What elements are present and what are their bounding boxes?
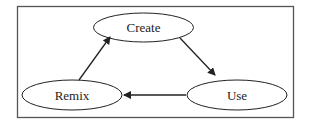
- node-use: Use: [187, 80, 287, 110]
- node-create: Create: [94, 13, 194, 42]
- node-use-label: Use: [227, 88, 247, 103]
- node-create-label: Create: [127, 20, 161, 35]
- node-remix: Remix: [22, 80, 122, 110]
- node-remix-label: Remix: [55, 88, 90, 103]
- cycle-diagram: Create Use Remix: [0, 0, 310, 123]
